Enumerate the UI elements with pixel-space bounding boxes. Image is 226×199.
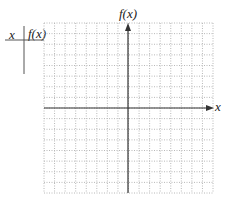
y-axis-arrow-icon	[125, 23, 131, 31]
coordinate-grid	[0, 0, 226, 199]
